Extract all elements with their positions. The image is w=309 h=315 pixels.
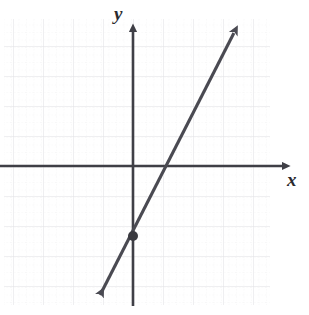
- graph-canvas: y x: [0, 0, 309, 315]
- grid-area: [4, 19, 270, 305]
- grid-group: [4, 19, 270, 305]
- x-axis-label: x: [287, 170, 297, 189]
- data-point-group: [128, 231, 138, 241]
- marked-point: [128, 231, 138, 241]
- coordinate-plane-svg: [0, 0, 309, 315]
- y-axis-label: y: [114, 4, 122, 23]
